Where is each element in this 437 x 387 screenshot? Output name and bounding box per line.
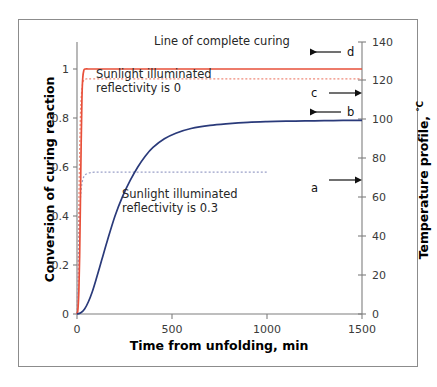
y-right-label-20: 20 (372, 269, 386, 282)
annotation-reflectivity-0-line1: Sunlight illuminated (96, 67, 212, 81)
annotation-reflectivity-03: Sunlight illuminated reflectivity is 0.3 (122, 187, 238, 215)
pointer-b-label: b (347, 105, 354, 119)
pointer-d: d (310, 45, 354, 59)
y-left-label-1: 1 (62, 63, 69, 76)
y-axis-left-tick-labels: 0 0.2 0.4 0.6 0.8 1 (52, 63, 70, 321)
chart-canvas: 0 0.2 0.4 0.6 0.8 1 0 20 40 60 80 100 12… (19, 20, 419, 368)
x-label-1000: 1000 (253, 323, 281, 336)
pointer-a: a (311, 180, 356, 195)
y-axis-left-ticks (73, 69, 77, 314)
y-right-label-100: 100 (372, 113, 393, 126)
figure-frame: Conversion of curing reaction Temperatur… (18, 19, 418, 367)
annotation-line-of-complete-curing: Line of complete curing (154, 34, 290, 48)
x-axis-ticks (77, 314, 362, 319)
y-right-label-80: 80 (372, 152, 386, 165)
y-right-label-140: 140 (372, 36, 393, 49)
annotation-reflectivity-0: Sunlight illuminated reflectivity is 0 (96, 67, 212, 95)
y-axis-right-tick-labels: 0 20 40 60 80 100 120 140 (372, 36, 393, 321)
series-b-conversion-reflectivity-03 (77, 120, 362, 314)
y-left-label-0: 0 (62, 308, 69, 321)
y-left-label-0.8: 0.8 (52, 112, 70, 125)
x-label-0: 0 (74, 323, 81, 336)
x-axis-tick-labels: 0 500 1000 1500 (74, 323, 377, 336)
y-right-label-60: 60 (372, 191, 386, 204)
pointer-c: c (311, 86, 356, 100)
annotation-reflectivity-0-line2: reflectivity is 0 (96, 81, 181, 95)
pointer-a-label: a (311, 181, 318, 195)
y-left-label-0.6: 0.6 (52, 161, 70, 174)
y-right-label-40: 40 (372, 230, 386, 243)
x-label-1500: 1500 (348, 323, 376, 336)
y-right-label-120: 120 (372, 74, 393, 87)
pointer-d-label: d (347, 45, 354, 59)
annotation-reflectivity-03-line2: reflectivity is 0.3 (122, 201, 218, 215)
y-right-label-0: 0 (372, 308, 379, 321)
y-left-label-0.2: 0.2 (52, 259, 70, 272)
x-label-500: 500 (162, 323, 183, 336)
pointer-c-label: c (311, 86, 317, 100)
y-left-label-0.4: 0.4 (52, 210, 70, 223)
annotation-reflectivity-03-line1: Sunlight illuminated (122, 187, 238, 201)
pointer-b: b (310, 105, 354, 119)
